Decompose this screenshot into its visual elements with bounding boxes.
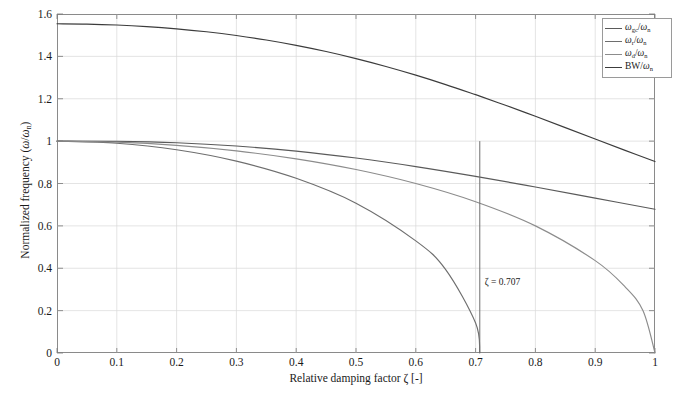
y-axis-omega: ω bbox=[19, 141, 31, 149]
x-tick-label: 0.5 bbox=[349, 356, 363, 368]
x-axis-label-text: Relative damping factor bbox=[289, 372, 403, 384]
x-tick-label: 1 bbox=[652, 356, 658, 368]
y-axis-slash: / bbox=[19, 137, 31, 140]
gridlines bbox=[57, 14, 655, 353]
y-tick-label: 0.2 bbox=[6, 305, 52, 317]
y-axis-sub-n: n bbox=[24, 125, 33, 129]
legend-item[interactable]: BW/ωn bbox=[605, 61, 668, 74]
legend-line-swatch bbox=[605, 28, 622, 29]
y-axis-omega-n: ω bbox=[19, 129, 31, 137]
x-tick-label: 0.6 bbox=[409, 356, 423, 368]
x-tick-label: 0.4 bbox=[289, 356, 303, 368]
legend-line-swatch bbox=[605, 54, 622, 55]
x-tick-label: 0.7 bbox=[468, 356, 482, 368]
x-tick-label: 0.2 bbox=[169, 356, 183, 368]
legend-item-label: ωgc/ωn bbox=[625, 22, 650, 35]
legend-line-swatch bbox=[605, 67, 622, 68]
y-tick-label: 0 bbox=[6, 347, 52, 359]
chart-figure: 00.20.40.60.811.21.41.6 00.10.20.30.40.5… bbox=[0, 0, 676, 393]
x-axis-label: Relative damping factor ζ [-] bbox=[57, 372, 655, 384]
x-tick-label: 0.9 bbox=[588, 356, 602, 368]
annotation-zeta-0707: ζ = 0.707 bbox=[485, 277, 520, 287]
legend-item[interactable]: ωgc/ωn bbox=[605, 22, 668, 35]
y-tick-label: 1.6 bbox=[6, 8, 52, 20]
plot-canvas bbox=[57, 14, 655, 353]
x-tick-label: 0.1 bbox=[110, 356, 124, 368]
legend-item-label: ωd/ωn bbox=[625, 48, 648, 61]
x-tick-label: 0 bbox=[54, 356, 60, 368]
x-tick-label: 0.8 bbox=[528, 356, 542, 368]
y-axis-label-suffix: ) bbox=[19, 122, 31, 126]
x-axis-label-suffix: [-] bbox=[408, 372, 422, 384]
x-tick-label: 0.3 bbox=[229, 356, 243, 368]
legend: ωgc/ωnωr/ωnωd/ωnBW/ωn bbox=[602, 18, 672, 78]
legend-item[interactable]: ωd/ωn bbox=[605, 48, 668, 61]
legend-item[interactable]: ωr/ωn bbox=[605, 35, 668, 48]
y-axis-label: Normalized frequency (ω/ωn) bbox=[19, 80, 33, 300]
legend-line-swatch bbox=[605, 41, 622, 42]
legend-item-label: ωr/ωn bbox=[625, 35, 646, 48]
legend-item-label: BW/ωn bbox=[625, 61, 653, 74]
y-tick-label: 1.4 bbox=[6, 50, 52, 62]
y-axis-label-text: Normalized frequency ( bbox=[19, 149, 31, 259]
